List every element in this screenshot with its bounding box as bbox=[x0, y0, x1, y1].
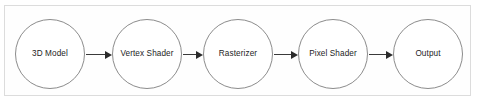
diagram-screenshot: 3D Model Vertex Shader Rasterizer Pixel … bbox=[0, 0, 479, 108]
arrow-line bbox=[86, 54, 105, 55]
pipeline-node-output[interactable]: Output bbox=[393, 19, 463, 89]
pipeline-node-model[interactable]: 3D Model bbox=[15, 19, 85, 89]
arrow-right-icon bbox=[196, 51, 203, 59]
pipeline-node-label: Pixel Shader bbox=[309, 49, 357, 58]
arrow-line bbox=[369, 54, 386, 55]
pipeline-connector-vertex-shader-to-rasterizer bbox=[183, 50, 203, 59]
pipeline-node-pixel-shader[interactable]: Pixel Shader bbox=[298, 19, 368, 89]
pipeline-connector-pixel-shader-to-output bbox=[369, 50, 393, 59]
pipeline-node-label: 3D Model bbox=[32, 49, 68, 58]
pipeline-node-label: Output bbox=[415, 49, 440, 58]
pipeline-node-vertex-shader[interactable]: Vertex Shader bbox=[112, 19, 182, 89]
arrow-right-icon bbox=[105, 51, 112, 59]
pipeline-connector-model-to-vertex-shader bbox=[86, 50, 112, 59]
arrow-line bbox=[274, 54, 291, 55]
pipeline-node-rasterizer[interactable]: Rasterizer bbox=[203, 19, 273, 89]
pipeline-node-label: Vertex Shader bbox=[120, 49, 173, 58]
pipeline-node-label: Rasterizer bbox=[219, 49, 257, 58]
arrow-right-icon bbox=[386, 51, 393, 59]
arrow-line bbox=[183, 54, 196, 55]
arrow-right-icon bbox=[291, 51, 298, 59]
pipeline-flow-diagram: 3D Model Vertex Shader Rasterizer Pixel … bbox=[0, 0, 479, 108]
pipeline-connector-rasterizer-to-pixel-shader bbox=[274, 50, 298, 59]
